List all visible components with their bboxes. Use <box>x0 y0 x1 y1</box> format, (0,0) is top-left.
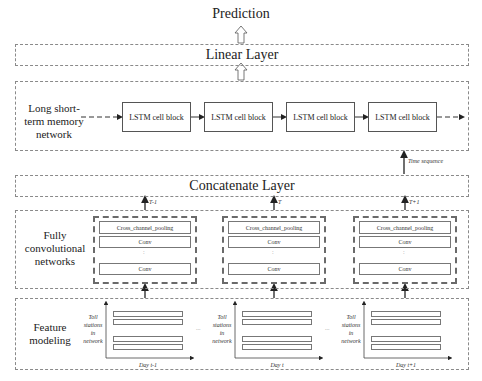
time-label: T <box>278 199 281 205</box>
cross-channel-pooling: Cross_channel_pooling <box>228 221 320 234</box>
label-line: term memory <box>18 115 90 128</box>
lstm-cell-block: LSTM cell block <box>368 102 437 132</box>
conv-layer: Conv <box>228 263 320 275</box>
x-axis-label: Day t <box>257 361 297 369</box>
label-line: Toll <box>338 313 364 321</box>
fcn-label: Fully convolutional networks <box>18 229 92 268</box>
concatenate-layer-label: Concatenate Layer <box>16 178 468 194</box>
label-line: in <box>338 329 364 337</box>
label-line: Long short- <box>18 102 90 115</box>
fcn-group: Cross_channel_pooling Conv : Conv <box>93 216 197 284</box>
label-line: network <box>18 128 90 141</box>
fcn-group: Cross_channel_pooling Conv : Conv <box>222 216 326 284</box>
label-line: network <box>338 337 364 345</box>
station-bar <box>242 336 312 342</box>
conv-layer: Conv <box>359 236 451 248</box>
y-axis-label: Toll stations in network <box>209 313 235 345</box>
label-line: Fully <box>18 229 92 242</box>
label-line: in <box>80 329 106 337</box>
conv-layer: Conv <box>228 236 320 248</box>
panel-ellipsis: ... <box>196 325 201 331</box>
y-axis-label: Toll stations in network <box>338 313 364 345</box>
linear-layer: Linear Layer <box>15 44 469 66</box>
time-label: T-1 <box>149 199 157 205</box>
label-line: Toll <box>80 313 106 321</box>
label-line: stations <box>80 321 106 329</box>
lstm-cell-block: LSTM cell block <box>286 102 355 132</box>
y-axis-label: Toll stations in network <box>80 313 106 345</box>
station-bar <box>371 311 441 317</box>
label-line: modeling <box>18 334 82 347</box>
x-axis-label: Day t-1 <box>128 361 168 369</box>
label-line: in <box>209 329 235 337</box>
station-bar <box>113 311 183 317</box>
lstm-cell-block: LSTM cell block <box>122 102 191 132</box>
station-bar <box>242 319 312 325</box>
time-sequence-label: Time sequence <box>408 158 443 164</box>
x-axis-label: Day t+1 <box>386 361 426 369</box>
station-bar <box>242 344 312 350</box>
station-bar <box>242 311 312 317</box>
label-line: network <box>80 337 106 345</box>
conv-layer: Conv <box>99 263 191 275</box>
station-bar <box>113 344 183 350</box>
lstm-cell-block: LSTM cell block <box>204 102 273 132</box>
label-line: convolutional <box>18 242 92 255</box>
label-line: network <box>209 337 235 345</box>
panel-ellipsis: ... <box>325 325 330 331</box>
vertical-ellipsis: : <box>403 249 405 255</box>
station-bar <box>371 344 441 350</box>
linear-layer-label: Linear Layer <box>16 47 468 63</box>
label-line: Toll <box>209 313 235 321</box>
feature-modeling-label: Feature modeling <box>18 321 82 347</box>
label-line: stations <box>209 321 235 329</box>
concatenate-layer: Concatenate Layer <box>15 175 469 197</box>
cross-channel-pooling: Cross_channel_pooling <box>99 221 191 234</box>
label-line: stations <box>338 321 364 329</box>
conv-layer: Conv <box>99 236 191 248</box>
lstm-network-label: Long short- term memory network <box>18 102 90 141</box>
conv-layer: Conv <box>359 263 451 275</box>
cross-channel-pooling: Cross_channel_pooling <box>359 221 451 234</box>
time-label: T+1 <box>409 199 419 205</box>
vertical-ellipsis: : <box>272 249 274 255</box>
station-bar <box>371 319 441 325</box>
station-bar <box>371 336 441 342</box>
station-bar <box>113 319 183 325</box>
fcn-group: Cross_channel_pooling Conv : Conv <box>353 216 457 284</box>
label-line: networks <box>18 255 92 268</box>
station-bar <box>113 336 183 342</box>
vertical-ellipsis: : <box>143 249 145 255</box>
label-line: Feature <box>18 321 82 334</box>
